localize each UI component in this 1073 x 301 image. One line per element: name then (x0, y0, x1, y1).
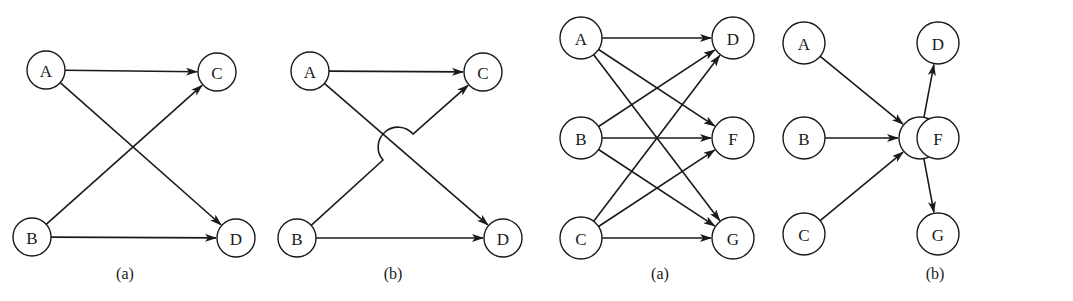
diagram-canvas: ACBD(a) ACBD(b) ABCDFG(a) ABCDFG(b) (0, 0, 1073, 301)
node-label: C (798, 226, 809, 245)
node-b: B (13, 218, 51, 256)
node-b: B (560, 117, 602, 159)
node-a: A (291, 52, 329, 90)
node-g: G (917, 213, 959, 255)
figure-caption: (a) (116, 265, 134, 283)
node-a: A (560, 17, 602, 59)
figure-b-hop-over-edges: ACBD(b) (278, 52, 522, 283)
node-label: A (304, 63, 317, 82)
node-label: A (40, 62, 53, 81)
node-label: B (26, 229, 37, 248)
node-c: C (560, 217, 602, 259)
figure-b-hub-node: ABCDFG(b) (783, 22, 959, 283)
edge-a-to-d (60, 83, 221, 225)
node-label: G (932, 226, 944, 245)
node-d: D (217, 219, 255, 257)
node-label: D (497, 230, 509, 249)
edge-b-to-c (311, 85, 468, 225)
node-a: A (783, 22, 825, 64)
node-label: D (727, 30, 739, 49)
node-label: B (575, 130, 586, 149)
edge-c-to-x (820, 152, 903, 221)
node-c: C (783, 213, 825, 255)
node-label: C (477, 64, 488, 83)
figure-caption: (a) (651, 265, 669, 283)
edge-a-to-x (820, 56, 903, 124)
edge-a-to-c (65, 70, 197, 72)
edge-x-to-d (924, 65, 934, 118)
node-label: A (575, 30, 588, 49)
node-d: D (712, 17, 754, 59)
figure-caption: (b) (384, 265, 403, 283)
node-d: D (917, 22, 959, 64)
edge-a-to-c (329, 71, 463, 72)
edge-b-to-d (51, 237, 216, 238)
node-c: C (464, 53, 502, 91)
node-label: B (291, 230, 302, 249)
node-b: B (783, 117, 825, 159)
node-label: F (728, 130, 737, 149)
node-f: F (917, 117, 959, 159)
figure-caption: (b) (926, 265, 945, 283)
node-label: A (798, 35, 811, 54)
node-g: G (712, 217, 754, 259)
node-label: G (727, 230, 739, 249)
edge-a-to-d (324, 83, 488, 224)
node-d: D (484, 219, 522, 257)
edge-b-to-c (46, 85, 202, 224)
node-label: C (575, 230, 586, 249)
node-label: B (798, 130, 809, 149)
edge-x-to-g (924, 159, 934, 213)
node-label: D (230, 230, 242, 249)
figure-a-full-bipartite: ABCDFG(a) (560, 17, 754, 283)
node-f: F (712, 117, 754, 159)
node-label: D (932, 35, 944, 54)
node-b: B (278, 219, 316, 257)
node-c: C (198, 53, 236, 91)
figure-a-crossing-edges: ACBD(a) (13, 51, 255, 283)
node-label: F (933, 130, 942, 149)
node-label: C (211, 64, 222, 83)
node-a: A (27, 51, 65, 89)
